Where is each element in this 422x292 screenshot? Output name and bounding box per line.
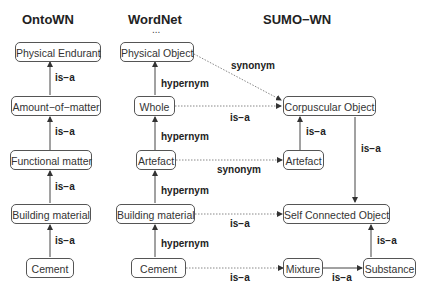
node-wn-cement: Cement [131,258,186,278]
edge-label-onto-3: is−a [55,181,75,192]
edge-label-sumo-artefact-corpuscular: is−a [306,126,326,137]
node-wn-building-material: Building material [116,204,195,224]
edge-label-map-artefact: synonym [217,164,261,175]
edge-label-wn-1: hypernym [161,78,209,89]
node-sumo-substance: Substance [363,258,416,278]
node-sumo-mixture: Mixture [283,258,323,278]
edge-label-wn-4: hypernym [161,238,209,249]
column-title-sumo: SUMO−WN [263,12,331,27]
edge-label-onto-4: is−a [55,235,75,246]
edge-label-wn-2: hypernym [161,131,209,142]
edge-label-onto-1: is−a [55,72,75,83]
edge-label-map-whole: is−a [230,112,250,123]
node-sumo-self-connected-object: Self Connected Object [283,204,390,224]
node-sumo-corpuscular-object: Corpuscular Object [283,96,376,116]
node-onto-functional-matter: Functional matter [10,150,92,170]
node-onto-cement: Cement [26,258,74,278]
node-sumo-artefact: Artefact [283,150,324,170]
node-onto-amount-of-matter: Amount−of−matter [11,96,101,116]
edge-label-map-building-material: is−a [230,218,250,229]
wordnet-ellipsis: ... [152,24,160,35]
edge-label-map-physical-object: synonym [231,60,275,71]
edge-label-wn-3: hypernym [161,185,209,196]
node-wn-physical-object: Physical Object [120,42,194,62]
column-title-ontown: OntoWN [22,12,74,27]
node-wn-artefact: Artefact [136,150,176,170]
node-onto-physical-endurant: Physical Endurant [15,42,101,62]
node-onto-building-material: Building material [11,204,91,224]
edge-label-sumo-corpuscular-selfconnected: is−a [361,143,381,154]
edge-label-onto-2: is−a [55,126,75,137]
edge-label-sumo-mixture-substance: is−a [332,272,352,283]
edge-label-map-cement: is−a [230,272,250,283]
node-wn-whole: Whole [134,96,175,116]
edge-label-sumo-substance-selfconnected: is−a [377,235,397,246]
